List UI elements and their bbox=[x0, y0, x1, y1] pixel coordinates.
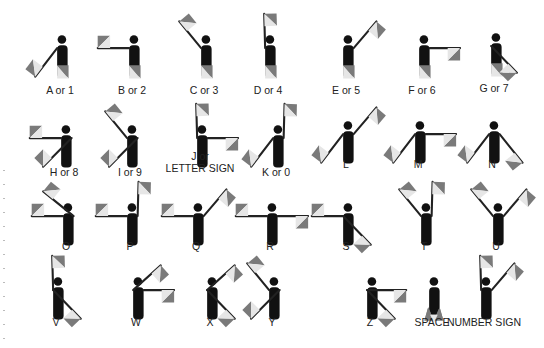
semaphore-figure-icon bbox=[306, 10, 386, 90]
signal-label: B or 2 bbox=[92, 84, 172, 96]
signal-label: L bbox=[306, 158, 386, 170]
signal-label: E or 5 bbox=[306, 84, 386, 96]
semaphore-figure-icon bbox=[92, 10, 172, 90]
semaphore-figure-icon bbox=[20, 10, 100, 90]
signal-label: T bbox=[384, 240, 464, 252]
signal-label: G or 7 bbox=[454, 82, 534, 94]
signal-label: N bbox=[452, 158, 532, 170]
signal-label: W bbox=[96, 316, 176, 328]
signal-label: R bbox=[230, 240, 310, 252]
semaphore-figure-icon bbox=[382, 10, 462, 90]
signal-label: Q bbox=[156, 240, 236, 252]
semaphore-chart: A or 1B or 2C or 3D or 4E or 5F or 6G or… bbox=[0, 0, 544, 348]
signal-label: Y bbox=[232, 316, 312, 328]
signal-label: K or 0 bbox=[236, 166, 316, 178]
signal-label: U bbox=[456, 240, 536, 252]
signal-label: F or 6 bbox=[382, 84, 462, 96]
signal-label: D or 4 bbox=[228, 84, 308, 96]
signal-label: S bbox=[306, 240, 386, 252]
signal-label: M bbox=[378, 158, 458, 170]
page-edge-dots bbox=[3, 170, 5, 340]
signal-label: V bbox=[16, 316, 96, 328]
semaphore-figure-icon bbox=[454, 8, 534, 88]
semaphore-figure-icon bbox=[228, 10, 308, 90]
signal-label: NUMBER SIGN bbox=[444, 316, 524, 328]
signal-label: A or 1 bbox=[20, 84, 100, 96]
signal-label: J or LETTER SIGN bbox=[160, 150, 240, 174]
signal-label: I or 9 bbox=[90, 166, 170, 178]
